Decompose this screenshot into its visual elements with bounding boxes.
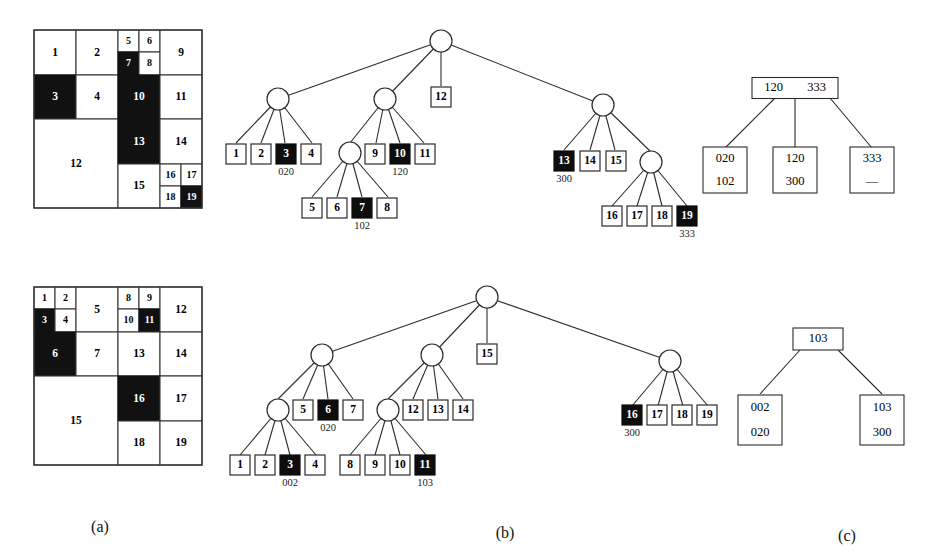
tree-leaf[interactable]: 1 <box>226 144 246 164</box>
tree-leaf[interactable]: 12 <box>403 400 423 420</box>
tree-leaf[interactable]: 10 <box>390 455 410 475</box>
tree-leaf[interactable]: 5 <box>302 198 322 218</box>
tree-leaf[interactable]: 13 <box>428 400 448 420</box>
tree-leaf[interactable]: 16300 <box>622 405 642 438</box>
tree-leaf[interactable]: 19333 <box>677 206 697 239</box>
tree-leaf-label: 15 <box>610 154 622 166</box>
tree-internal-node[interactable] <box>377 399 399 421</box>
tree-leaf[interactable]: 14 <box>453 400 473 420</box>
tree-leaf[interactable]: 4 <box>301 144 321 164</box>
tree-leaf-label: 17 <box>631 209 643 221</box>
tree-leaf[interactable]: 6020 <box>318 400 338 433</box>
tree-leaf[interactable]: 15 <box>477 344 497 364</box>
tree-leaf[interactable]: 17 <box>627 206 647 226</box>
btree-edge <box>760 350 800 394</box>
tree-leaf[interactable]: 8 <box>340 455 360 475</box>
btree-root-node[interactable]: 120333 <box>752 78 838 99</box>
grid-cell-label: 5 <box>94 303 100 315</box>
tree-leaf-label: 12 <box>435 90 447 102</box>
tree-leaf[interactable]: 2 <box>255 455 275 475</box>
tree-leaf-label: 12 <box>407 403 419 415</box>
tree-internal-node[interactable] <box>267 88 289 110</box>
grid-cell-label: 17 <box>187 169 197 180</box>
tree-leaf[interactable]: 3002 <box>280 455 300 488</box>
grid-cell-label: 15 <box>70 414 82 426</box>
tree-leaf[interactable]: 17 <box>647 405 667 425</box>
tree-leaf[interactable]: 4 <box>305 455 325 475</box>
grid-cell-label: 16 <box>133 392 145 404</box>
tree-internal-node[interactable] <box>476 286 498 308</box>
grid-cell: 5 <box>118 30 139 52</box>
tree-internal-node[interactable] <box>640 151 662 173</box>
btree-leaf-node[interactable]: 103300 <box>860 395 904 445</box>
tree-leaf[interactable]: 16 <box>602 206 622 226</box>
btree-leaf-node[interactable]: 020102 <box>703 147 747 193</box>
btree-leaf-key: 103 <box>873 400 892 414</box>
grid-cell: 16 <box>118 376 160 421</box>
tree-leaf[interactable]: 1 <box>230 455 250 475</box>
grid-cell: 13 <box>118 332 160 376</box>
tree-internal-node[interactable] <box>430 30 452 52</box>
grid-cell-label: 4 <box>94 90 100 102</box>
grid-cell-label: 14 <box>175 347 187 359</box>
btree-root-node[interactable]: 103 <box>793 328 843 350</box>
tree-leaf-label: 9 <box>372 458 378 470</box>
tree-leaf-label: 5 <box>309 201 315 213</box>
tree-leaf[interactable]: 6 <box>327 198 347 218</box>
grid-cell: 19 <box>181 186 202 208</box>
tree-leaf[interactable]: 7102 <box>352 198 372 231</box>
btree-leaf-key: 020 <box>751 425 770 439</box>
tree-leaf[interactable]: 18 <box>672 405 692 425</box>
tree-leaf[interactable]: 14 <box>580 151 600 171</box>
tree-leaf[interactable]: 11 <box>415 144 435 164</box>
tree-leaf-label: 2 <box>258 147 264 159</box>
tree-leaf[interactable]: 13300 <box>554 151 574 184</box>
tree-internal-node[interactable] <box>592 94 614 116</box>
tree-leaf[interactable]: 2 <box>251 144 271 164</box>
tree-leaf-label: 8 <box>347 458 353 470</box>
tree-leaf[interactable]: 15 <box>606 151 626 171</box>
tree-leaf[interactable]: 18 <box>652 206 672 226</box>
tree-leaf-label: 10 <box>394 458 406 470</box>
grid-cell-label: 13 <box>133 135 145 147</box>
tree-leaf[interactable]: 19 <box>697 405 717 425</box>
tree-leaf-label: 4 <box>308 147 314 159</box>
tree-leaf-label: 1 <box>233 147 239 159</box>
tree-internal-node[interactable] <box>659 350 681 372</box>
btree-leaf-node[interactable]: 120300 <box>773 147 817 193</box>
tree-leaf[interactable]: 12 <box>431 87 451 107</box>
tree-leaf[interactable]: 10120 <box>390 144 410 177</box>
tree-leaf-label: 2 <box>262 458 268 470</box>
tree-internal-node[interactable] <box>311 344 333 366</box>
grid-cell: 17 <box>181 164 202 186</box>
tree-internal-node[interactable] <box>374 88 396 110</box>
tree-leaf-label: 14 <box>584 154 596 166</box>
tree-leaf[interactable]: 7 <box>343 400 363 420</box>
tree-internal-node[interactable] <box>339 142 361 164</box>
panel-c-top-btree: 120333020102120300333— <box>703 78 894 194</box>
btree-leaf-key: — <box>865 174 879 188</box>
grid-cell: 7 <box>118 52 139 75</box>
tree-leaf[interactable]: 5 <box>293 400 313 420</box>
tree-leaf-label: 1 <box>237 458 243 470</box>
tree-leaf[interactable]: 9 <box>365 455 385 475</box>
tree-leaf[interactable]: 8 <box>377 198 397 218</box>
grid-cell: 5 <box>76 287 118 332</box>
btree-edge <box>838 350 882 394</box>
btree-leaf-node[interactable]: 002020 <box>738 395 782 445</box>
panel-b-bottom-tree: 5602071213141230024891011103151630017181… <box>230 286 717 488</box>
tree-leaf-label: 18 <box>656 209 668 221</box>
tree-leaf-label: 16 <box>626 408 638 420</box>
grid-cell-label: 9 <box>178 46 184 58</box>
tree-leaf[interactable]: 9 <box>365 144 385 164</box>
tree-internal-node[interactable] <box>267 399 289 421</box>
tree-leaf[interactable]: 3020 <box>276 144 296 177</box>
tree-internal-node[interactable] <box>421 344 443 366</box>
tree-leaf-code: 002 <box>282 477 298 488</box>
grid-cell-label: 4 <box>63 314 68 325</box>
grid-cell: 4 <box>76 75 118 119</box>
tree-leaf[interactable]: 11103 <box>415 455 435 488</box>
panel-c-bottom-btree: 103002020103300 <box>738 328 904 445</box>
caption-a: (a) <box>91 518 109 536</box>
btree-leaf-node[interactable]: 333— <box>850 147 894 193</box>
